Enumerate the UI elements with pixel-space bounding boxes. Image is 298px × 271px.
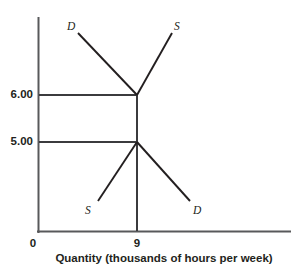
upper-supply-curve <box>137 33 172 95</box>
x-tick-label-0: 0 <box>25 238 41 250</box>
upper-supply-curve-label: S <box>174 21 180 33</box>
lower-supply-curve <box>98 142 137 201</box>
y-tick-label-600: 6.00 <box>3 89 33 101</box>
x-tick-label-9: 9 <box>129 238 145 250</box>
upper-demand-curve-label: D <box>67 21 75 33</box>
lower-demand-curve <box>137 142 190 201</box>
lower-demand-curve-label: D <box>193 205 201 217</box>
chart-plot-area <box>0 0 298 271</box>
supply-demand-chart: 6.00 5.00 0 9 D S S D Quantity (thousand… <box>0 0 298 271</box>
y-tick-label-500: 5.00 <box>3 136 33 148</box>
x-axis-title: Quantity (thousands of hours per week) <box>38 253 290 265</box>
lower-supply-curve-label: S <box>85 205 91 217</box>
upper-demand-curve <box>78 33 137 95</box>
